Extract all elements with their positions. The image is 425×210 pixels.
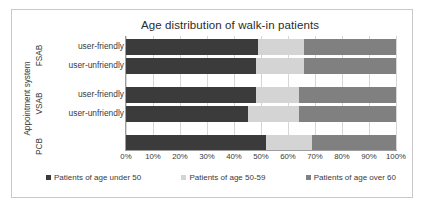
x-axis-tick-label: 40%: [226, 152, 242, 161]
bar-segment-over60: [299, 106, 396, 122]
legend-swatch-icon: [46, 175, 51, 180]
x-axis-tick-labels: 0%10%20%30%40%50%60%70%80%90%100%: [126, 152, 396, 166]
legend-item[interactable]: Patients of age under 50: [46, 173, 141, 182]
x-axis-tick-label: 60%: [280, 152, 296, 161]
bar-row: [126, 58, 396, 74]
y-axis-title: Appointment system: [23, 39, 32, 159]
legend-label: Patients of age under 50: [54, 173, 141, 182]
legend-item[interactable]: Patients of age 50-59: [181, 173, 265, 182]
y-category-label-fsab-unfriendly: user-unfriendly: [50, 60, 124, 70]
legend-swatch-icon: [306, 175, 311, 180]
bar-segment-under50: [126, 58, 256, 74]
y-category-label-vsab-unfriendly: user-unfriendly: [50, 108, 124, 118]
x-axis-tick-label: 0%: [120, 152, 131, 161]
x-axis-tick-label: 20%: [172, 152, 188, 161]
bar-segment-under50: [126, 106, 248, 122]
bar-segment-over60: [304, 39, 396, 55]
bar-segment-under50: [126, 87, 256, 103]
bar-row: [126, 87, 396, 103]
bar-segment-age50to59: [258, 39, 304, 55]
gridline: [396, 36, 397, 150]
plot-area: [126, 36, 396, 150]
y-group-label-vsab: VSAB: [35, 81, 44, 127]
chart-screenshot: Age distribution of walk-in patients App…: [0, 0, 425, 210]
legend-swatch-icon: [181, 175, 186, 180]
y-category-label-fsab-friendly: user-friendly: [50, 41, 124, 51]
chart-legend: Patients of age under 50Patients of age …: [46, 173, 396, 182]
x-axis-tick-label: 10%: [145, 152, 161, 161]
bar-row: [126, 39, 396, 55]
bar-segment-under50: [126, 39, 258, 55]
x-axis-tick-label: 90%: [361, 152, 377, 161]
bar-segment-age50to59: [266, 135, 312, 150]
y-category-label-vsab-friendly: user-friendly: [50, 89, 124, 99]
bar-row: [126, 135, 396, 150]
bar-segment-age50to59: [256, 87, 299, 103]
legend-label: Patients of age 50-59: [189, 173, 265, 182]
bar-segment-over60: [299, 87, 396, 103]
legend-item[interactable]: Patients of age over 60: [306, 173, 396, 182]
x-axis-line: [126, 150, 397, 151]
x-axis-tick-label: 70%: [307, 152, 323, 161]
x-axis-tick-label: 80%: [334, 152, 350, 161]
legend-label: Patients of age over 60: [314, 173, 396, 182]
bar-segment-under50: [126, 135, 266, 150]
bar-row: [126, 106, 396, 122]
x-axis-tick-label: 100%: [386, 152, 406, 161]
x-axis-tick-label: 50%: [253, 152, 269, 161]
bar-segment-age50to59: [256, 58, 305, 74]
y-group-label-fsab: FSAB: [35, 33, 44, 79]
bar-segment-age50to59: [248, 106, 299, 122]
y-group-label-pcb: PCB: [35, 124, 44, 170]
bar-segment-over60: [312, 135, 396, 150]
bar-segment-over60: [304, 58, 396, 74]
x-axis-tick-label: 30%: [199, 152, 215, 161]
